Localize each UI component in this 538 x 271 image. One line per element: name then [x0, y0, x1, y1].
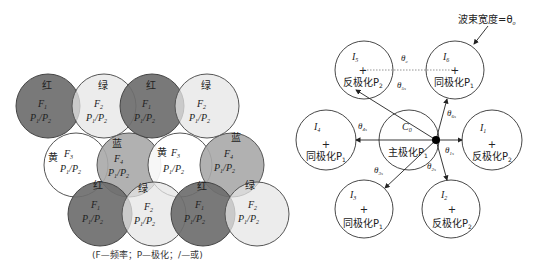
- reuse-pattern-figure: 红 F1 P1/P2 绿 F2 P1/P2 红 F1 P1/P2 绿 F2 P1…: [16, 74, 289, 260]
- center-cell-label: 主极化P1: [388, 146, 428, 159]
- cell-color-label: 蓝: [231, 132, 241, 143]
- cell-pol: P1/P2: [81, 213, 103, 225]
- angle-theta-3s: θ3s: [374, 165, 383, 176]
- cell-pol: P1/P2: [85, 112, 107, 124]
- center-cell-name: C0: [402, 121, 412, 133]
- interferer-label: 同极化P1: [343, 217, 383, 230]
- cell-pol: P1/P2: [237, 213, 259, 225]
- interferer-label: 同极化P1: [434, 76, 474, 89]
- cell-color-label: 绿: [201, 79, 211, 91]
- interference-vectors: [356, 26, 488, 188]
- svg-text:+: +: [359, 65, 367, 76]
- svg-text:+: +: [488, 139, 496, 150]
- cell-pol: P1/P2: [59, 163, 81, 175]
- cell-color-label: 蓝: [112, 138, 122, 149]
- cell-pol: P1/P2: [133, 112, 155, 124]
- interferer-name: I6: [442, 51, 449, 63]
- cell-pol: P1/P2: [133, 215, 155, 227]
- interferer-name: I2: [440, 189, 447, 201]
- interferer-label: 反极化P2: [343, 76, 383, 89]
- cell-color-label: 红: [146, 79, 156, 91]
- diagram-canvas: 红 F1 P1/P2 绿 F2 P1/P2 红 F1 P1/P2 绿 F2 P1…: [0, 0, 538, 271]
- angle-theta-6s: θ6s: [447, 108, 456, 119]
- svg-text:+: +: [448, 204, 456, 215]
- cell-pol: P1/P2: [29, 112, 51, 124]
- interferer-name: I1: [479, 122, 486, 134]
- cell-color-label: 绿: [245, 179, 255, 191]
- interferer-label: 反极化P2: [472, 150, 512, 163]
- interferer-label: 同极化P1: [306, 150, 346, 163]
- angle-theta-c: θc: [401, 53, 408, 64]
- svg-text:+: +: [451, 65, 459, 76]
- cell-color-label: 绿: [98, 79, 108, 91]
- interferer-name: I3: [349, 189, 356, 201]
- svg-text:+: +: [322, 139, 330, 150]
- interferer-name: I5: [351, 51, 358, 63]
- cell-color-label: 红: [93, 179, 103, 191]
- cell-color-label: 黄: [157, 146, 167, 158]
- cell-pol: P1/P2: [213, 162, 235, 174]
- cell-pol: P1/P2: [183, 213, 205, 225]
- angle-theta-4s: θ4s: [358, 121, 367, 132]
- beamwidth-label: 波束宽度=θo: [458, 13, 516, 26]
- cell-color-label: 黄: [48, 151, 58, 163]
- angle-theta-1s: θ1s: [445, 145, 454, 156]
- cell-pol: P1/P2: [162, 163, 184, 175]
- interferer-label: 反极化P2: [432, 217, 472, 230]
- figure-caption: (F—频率；P—极化；/—或): [92, 249, 203, 260]
- cell-pol: P1/P2: [188, 112, 210, 124]
- cell-pol: P1/P2: [107, 167, 129, 179]
- cell-color-label: 绿: [138, 182, 148, 194]
- angle-theta-2s: θ2s: [427, 161, 436, 172]
- interferer-name: I4: [313, 121, 320, 133]
- angle-theta-5s: θ5s: [397, 80, 406, 91]
- svg-text:+: +: [360, 204, 368, 215]
- cell-color-label: 红: [197, 180, 207, 192]
- beam-point: [432, 136, 440, 144]
- cell-green: [225, 182, 289, 246]
- cell-color-label: 红: [42, 79, 52, 91]
